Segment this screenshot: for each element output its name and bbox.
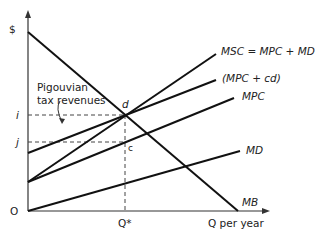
point-c-label: c: [128, 143, 133, 153]
msc-curve: [28, 54, 216, 182]
mb-curve: [28, 32, 238, 211]
origin-label: O: [10, 205, 18, 217]
mpc-cd-label: (MPC + cd): [222, 72, 281, 84]
x-axis-label: Q per year: [208, 217, 264, 229]
annotation-line1: Pigouvian: [37, 81, 88, 93]
msc-label: MSC = MPC + MD: [221, 45, 315, 57]
y-axis-arrow-icon: [25, 10, 31, 18]
price-j-label: j: [14, 136, 19, 148]
x-axis-arrow-icon: [262, 208, 270, 214]
mpc-label: MPC: [242, 90, 265, 102]
point-d-label: d: [122, 98, 129, 110]
pigouvian-tax-diagram: $ O i j d c Q* Q per year Pigouvian tax …: [0, 0, 327, 243]
price-i-label: i: [16, 109, 19, 121]
annotation-line2: tax revenues: [37, 94, 106, 106]
md-label: MD: [246, 144, 263, 156]
mb-label: MB: [242, 196, 258, 208]
q-star-label: Q*: [118, 217, 132, 229]
annotation-arrowhead-icon: [59, 118, 65, 124]
y-axis-label: $: [9, 23, 16, 35]
